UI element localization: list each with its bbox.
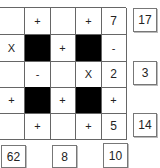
- column-result-2: 8: [52, 145, 77, 168]
- row-result-3: 14: [133, 113, 157, 137]
- input-cell-r4c2[interactable]: [50, 113, 76, 140]
- input-cell-r2c0[interactable]: [0, 61, 25, 88]
- operator-cell: +: [25, 8, 51, 35]
- operator-cell: +: [101, 87, 127, 114]
- column-result-1: 62: [1, 145, 26, 168]
- input-cell-r4c0[interactable]: [0, 113, 25, 140]
- operator-cell: +: [76, 113, 102, 140]
- column-result-3: 10: [103, 143, 128, 168]
- operator-cell: +: [50, 87, 76, 114]
- row-result-1: 17: [133, 8, 157, 32]
- input-cell-r0c2[interactable]: [50, 8, 76, 35]
- puzzle-grid: + + 7 X + - - X 2 + + + + + 5: [0, 7, 126, 140]
- input-cell-r0c0[interactable]: [0, 8, 25, 35]
- given-number-cell: 2: [101, 61, 127, 88]
- row-result-2: 3: [133, 61, 157, 85]
- operator-cell: -: [101, 35, 127, 62]
- operator-cell: +: [50, 35, 76, 62]
- given-number-cell: 5: [101, 113, 127, 140]
- operator-cell: X: [0, 35, 25, 62]
- blocked-cell: [76, 35, 102, 62]
- input-cell-r2c2[interactable]: [50, 61, 76, 88]
- blocked-cell: [25, 35, 51, 62]
- operator-cell: +: [76, 8, 102, 35]
- operator-cell: -: [25, 61, 51, 88]
- blocked-cell: [25, 87, 51, 114]
- given-number-cell: 7: [101, 8, 127, 35]
- blocked-cell: [76, 87, 102, 114]
- operator-cell: X: [76, 61, 102, 88]
- operator-cell: +: [25, 113, 51, 140]
- operator-cell: +: [0, 87, 25, 114]
